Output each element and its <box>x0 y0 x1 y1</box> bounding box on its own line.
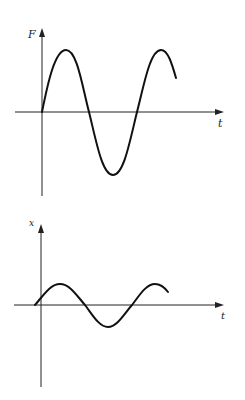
figure: F t x t <box>0 0 245 400</box>
top-x-label: t <box>218 117 223 130</box>
top-y-axis-arrow-icon <box>39 28 45 37</box>
bottom-graph: x t <box>14 218 226 387</box>
bottom-y-axis-arrow-icon <box>38 224 44 233</box>
top-x-axis-arrow-icon <box>215 109 224 115</box>
bottom-y-label: x <box>29 218 34 228</box>
top-graph: F t <box>15 28 224 196</box>
bottom-x-label: t <box>221 310 226 321</box>
top-y-label: F <box>27 28 36 41</box>
bottom-x-axis-arrow-icon <box>215 302 224 308</box>
